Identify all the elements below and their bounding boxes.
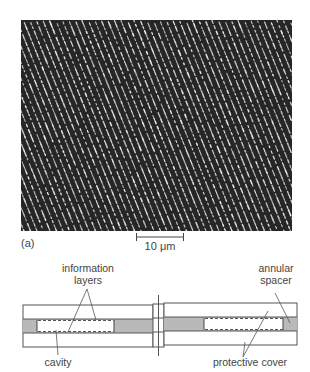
micrograph-image [21, 20, 292, 231]
label-information-layers: information layers [56, 262, 120, 286]
label-annular-spacer: annular spacer [244, 262, 308, 286]
label-annular-spacer-line2: spacer [244, 274, 308, 286]
label-information-layers-line1: information [56, 262, 120, 274]
scale-bar-label: 10 μm [136, 240, 184, 252]
panel-label: (a) [21, 237, 34, 249]
right-cavity [204, 318, 283, 330]
label-cavity: cavity [36, 356, 80, 368]
left-cavity [37, 320, 114, 332]
label-protective-cover: protective cover [200, 356, 300, 368]
track-pattern [21, 20, 292, 231]
label-information-layers-line2: layers [56, 274, 120, 286]
label-annular-spacer-line1: annular [244, 262, 308, 274]
figure: (a) 10 μm [0, 0, 310, 372]
